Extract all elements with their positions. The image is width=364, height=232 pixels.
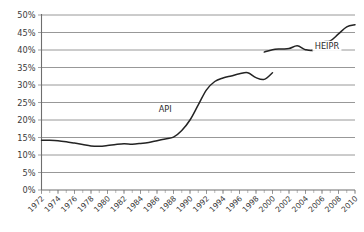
- y-tick-label: 25%: [17, 98, 35, 108]
- chart-container: 0%5%10%15%20%25%30%35%40%45%50% 19721974…: [0, 0, 364, 232]
- x-tick-label: 1996: [224, 194, 244, 214]
- series-annotation-heipr: HEIPR: [315, 41, 340, 51]
- x-tick-label: 2006: [307, 194, 327, 214]
- y-tick-label: 15%: [17, 133, 35, 143]
- line-chart: 0%5%10%15%20%25%30%35%40%45%50% 19721974…: [0, 0, 364, 232]
- x-tick-label: 1988: [158, 194, 178, 214]
- data-series-group: [42, 25, 356, 146]
- x-tick-label: 1978: [76, 194, 96, 214]
- y-tick-label: 45%: [17, 28, 35, 38]
- x-axis-labels: 1972197419761978198019821984198619881990…: [26, 194, 360, 214]
- y-tick-label: 40%: [17, 45, 35, 55]
- x-tick-label: 2008: [323, 194, 343, 214]
- series-annotations: APIHEIPR: [156, 41, 342, 114]
- x-tick-label: 1976: [59, 194, 79, 214]
- x-tick-label: 1974: [43, 194, 63, 214]
- x-tick-label: 2010: [340, 194, 360, 214]
- x-tick-label: 1982: [109, 194, 129, 214]
- x-tick-label: 1972: [26, 194, 46, 214]
- y-tick-label: 10%: [17, 150, 35, 160]
- y-tick-label: 30%: [17, 80, 35, 90]
- x-tick-label: 1986: [142, 194, 162, 214]
- y-tick-label: 20%: [17, 115, 35, 125]
- y-tick-label: 5%: [23, 168, 36, 178]
- x-tick-label: 2000: [257, 194, 277, 214]
- y-tick-label: 35%: [17, 63, 35, 73]
- x-tick-label: 1992: [191, 194, 211, 214]
- x-tick-label: 1980: [92, 194, 112, 214]
- x-tick-label: 1994: [208, 194, 228, 214]
- y-tick-label: 0%: [23, 185, 36, 195]
- x-tick-label: 2002: [274, 194, 294, 214]
- x-tick-label: 2004: [290, 194, 310, 214]
- x-tick-label: 1984: [125, 194, 145, 214]
- x-tick-label: 1998: [241, 194, 261, 214]
- y-axis-labels: 0%5%10%15%20%25%30%35%40%45%50%: [17, 10, 35, 195]
- y-tick-label: 50%: [17, 10, 35, 20]
- series-annotation-api: API: [159, 104, 172, 114]
- gridlines: [42, 15, 356, 173]
- x-tick-label: 1990: [175, 194, 195, 214]
